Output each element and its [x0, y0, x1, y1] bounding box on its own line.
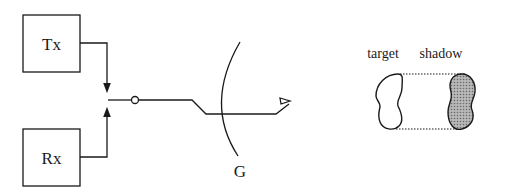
ground-surface-arc: [221, 42, 240, 156]
rx-block: Rx: [23, 129, 80, 186]
tx-label: Tx: [42, 35, 61, 54]
target-label: target: [367, 46, 399, 61]
rx-label: Rx: [42, 149, 62, 168]
transmission-line: [108, 97, 290, 115]
radar-diagram: Tx Rx G target shadow: [0, 0, 506, 190]
tx-arrow: [80, 43, 107, 88]
tx-block: Tx: [23, 15, 80, 72]
shadow-label: shadow: [420, 46, 464, 61]
shadow-shape: [448, 74, 475, 129]
target-shape: [376, 74, 402, 129]
rx-arrow: [80, 112, 107, 157]
antenna-icon: [280, 98, 290, 104]
ground-label: G: [234, 162, 246, 181]
switch-node-icon: [132, 97, 139, 104]
